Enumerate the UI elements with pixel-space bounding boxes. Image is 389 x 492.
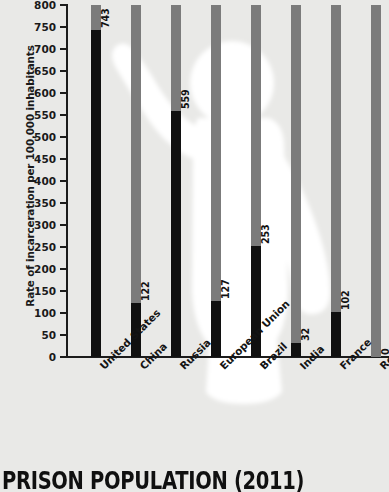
y-tick-label: 300 bbox=[16, 219, 56, 231]
y-tick-label: 150 bbox=[16, 285, 56, 297]
y-tick-label: 100 bbox=[16, 307, 56, 319]
bar-track bbox=[291, 5, 301, 357]
prison-population-bar-chart: Rate of incarceration per 100,000 inhabi… bbox=[0, 0, 389, 492]
bar-value-label: 127 bbox=[220, 280, 231, 299]
y-tick-label: 550 bbox=[16, 109, 56, 121]
y-tick-label: 200 bbox=[16, 263, 56, 275]
y-tick-label: 450 bbox=[16, 153, 56, 165]
y-tick-label: 50 bbox=[16, 329, 56, 341]
bar-track bbox=[371, 5, 381, 357]
y-tick-label: 650 bbox=[16, 65, 56, 77]
y-tick-label: 0 bbox=[16, 351, 56, 363]
y-tick-label: 500 bbox=[16, 131, 56, 143]
bar-value-label: 102 bbox=[340, 291, 351, 310]
y-tick-label: 250 bbox=[16, 241, 56, 253]
y-tick-label: 350 bbox=[16, 197, 56, 209]
bar-fill[interactable] bbox=[331, 312, 341, 357]
bar-value-label: 559 bbox=[180, 90, 191, 109]
chart-title: PRISON POPULATION (2011) bbox=[2, 466, 304, 492]
bar-value-label: 253 bbox=[260, 224, 271, 243]
plot-area: 743122559127253321020 bbox=[66, 5, 389, 357]
bar-value-label: 743 bbox=[100, 9, 111, 28]
bar-fill[interactable] bbox=[211, 301, 221, 357]
y-tick-label: 600 bbox=[16, 87, 56, 99]
bar-value-label: 122 bbox=[140, 282, 151, 301]
bar-fill[interactable] bbox=[91, 30, 101, 357]
bar-value-label: 32 bbox=[300, 328, 311, 341]
y-tick-label: 700 bbox=[16, 43, 56, 55]
y-tick-label: 400 bbox=[16, 175, 56, 187]
y-tick-label: 800 bbox=[16, 0, 56, 11]
bar-fill[interactable] bbox=[171, 111, 181, 357]
y-tick-label: 750 bbox=[16, 21, 56, 33]
bar-fill[interactable] bbox=[291, 343, 301, 357]
